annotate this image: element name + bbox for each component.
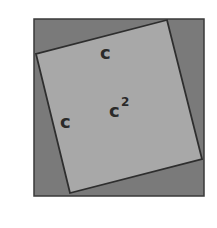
label-left-side: c <box>60 111 71 132</box>
label-area-exponent: 2 <box>121 95 129 109</box>
label-area: c <box>109 100 120 121</box>
pythagorean-diagram: c c c 2 <box>0 0 217 228</box>
label-top-side: c <box>100 42 111 63</box>
